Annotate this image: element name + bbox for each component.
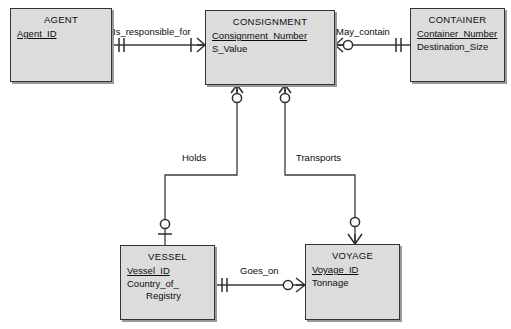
attribute-destination-size: Destination_Size (417, 41, 500, 54)
entity-voyage-name: VOYAGE (306, 250, 399, 262)
relationship-label-goes-on: Goes_on (240, 265, 279, 276)
connector-goes-on (215, 278, 305, 292)
entity-consignment-attributes: Consignment_Number S_Value (206, 30, 334, 55)
entity-agent-attributes: Agent_ID (11, 28, 111, 41)
relationship-label-transports: Transports (296, 152, 341, 163)
entity-container[interactable]: CONTAINER Container_Number Destination_S… (410, 8, 505, 82)
connector-transports (279, 85, 362, 244)
attribute-tonnage: Tonnage (312, 277, 395, 290)
entity-container-attributes: Container_Number Destination_Size (411, 28, 504, 53)
entity-consignment[interactable]: CONSIGNMENT Consignment_Number S_Value (205, 10, 335, 85)
relationship-label-is-responsible-for: Is_responsible_for (113, 26, 191, 37)
attribute-s-value: S_Value (212, 43, 330, 56)
entity-voyage-attributes: Voyage_ID Tonnage (306, 264, 399, 289)
entity-container-name: CONTAINER (411, 14, 504, 26)
cardinality-zero-or-many-consignment (335, 38, 353, 52)
attribute-country-of: Country_of_ (127, 278, 210, 291)
connector-holds (158, 85, 243, 245)
attribute-registry: Registry (127, 290, 210, 303)
attribute-consignment-number: Consignment_Number (212, 30, 330, 43)
entity-vessel-name: VESSEL (121, 251, 214, 263)
entity-agent[interactable]: AGENT Agent_ID (10, 8, 112, 82)
connector-may-contain (335, 38, 410, 52)
attribute-container-number: Container_Number (417, 28, 500, 41)
attribute-agent-id: Agent_ID (17, 28, 107, 41)
relationship-label-holds: Holds (182, 152, 206, 163)
cardinality-zero-or-many-consignment-transports (279, 85, 291, 103)
er-diagram-canvas: AGENT Agent_ID CONSIGNMENT Consignment_N… (0, 0, 511, 329)
entity-agent-name: AGENT (11, 14, 111, 26)
attribute-vessel-id: Vessel_ID (127, 265, 210, 278)
entity-vessel[interactable]: VESSEL Vessel_ID Country_of_ Registry (120, 245, 215, 320)
entity-consignment-name: CONSIGNMENT (206, 16, 334, 28)
relationship-label-may-contain: May_contain (336, 26, 390, 37)
connector-is-responsible-for (112, 38, 205, 52)
attribute-voyage-id: Voyage_ID (312, 264, 395, 277)
entity-vessel-attributes: Vessel_ID Country_of_ Registry (121, 265, 214, 303)
cardinality-zero-or-many-consignment-holds (231, 85, 243, 103)
entity-voyage[interactable]: VOYAGE Voyage_ID Tonnage (305, 244, 400, 320)
